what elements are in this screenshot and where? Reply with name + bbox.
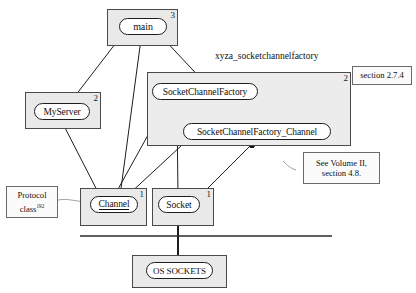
edge-myserver-channel [62, 122, 100, 196]
container-socket-multiplicity: 1 [207, 189, 212, 199]
note-protocol-line1: Protocol [17, 190, 46, 201]
connector-layer [0, 0, 416, 293]
diagram-canvas: xyza_socketchannelfactory 2 3 2 1 1 main… [0, 0, 416, 293]
node-socket-label: Socket [166, 200, 191, 210]
leader-volume-note [283, 161, 296, 170]
container-channel-multiplicity: 1 [140, 189, 145, 199]
node-socket[interactable]: Socket [158, 196, 200, 213]
edge-main-channel [120, 39, 141, 196]
note-section-274[interactable]: section 2.7.4 [352, 66, 412, 85]
package-label: xyza_socketchannelfactory [215, 51, 318, 61]
note-volume-line2: section 4.8. [322, 168, 361, 179]
container-main-multiplicity: 3 [171, 10, 176, 20]
note-protocol-superscript: 192 [36, 203, 44, 209]
note-see-volume[interactable]: See Volume II, section 4.8. [303, 152, 380, 184]
container-myserver-multiplicity: 2 [94, 93, 99, 103]
node-socketchannelfactory-label: SocketChannelFactory [163, 87, 248, 97]
package-multiplicity: 2 [344, 73, 349, 83]
note-volume-line1: See Volume II, [316, 158, 367, 169]
node-myserver-label: MyServer [43, 107, 80, 117]
node-ossockets-label: OS SOCKETS [153, 266, 206, 276]
node-myserver[interactable]: MyServer [34, 103, 90, 120]
node-main-label: main [133, 21, 153, 32]
node-socketchannelfactory-channel-label: SocketChannelFactory_Channel [197, 127, 317, 137]
node-channel-label: Channel [99, 199, 130, 210]
node-socketchannelfactory[interactable]: SocketChannelFactory [152, 83, 258, 100]
node-ossockets[interactable]: OS SOCKETS [146, 262, 213, 279]
note-protocol-line2: class192 [20, 201, 45, 214]
note-protocol-class[interactable]: Protocol class192 [6, 186, 58, 218]
node-channel[interactable]: Channel [90, 196, 138, 213]
node-main[interactable]: main [119, 18, 167, 35]
node-socketchannelfactory-channel[interactable]: SocketChannelFactory_Channel [183, 123, 331, 140]
note-section-line1: section 2.7.4 [360, 70, 404, 81]
